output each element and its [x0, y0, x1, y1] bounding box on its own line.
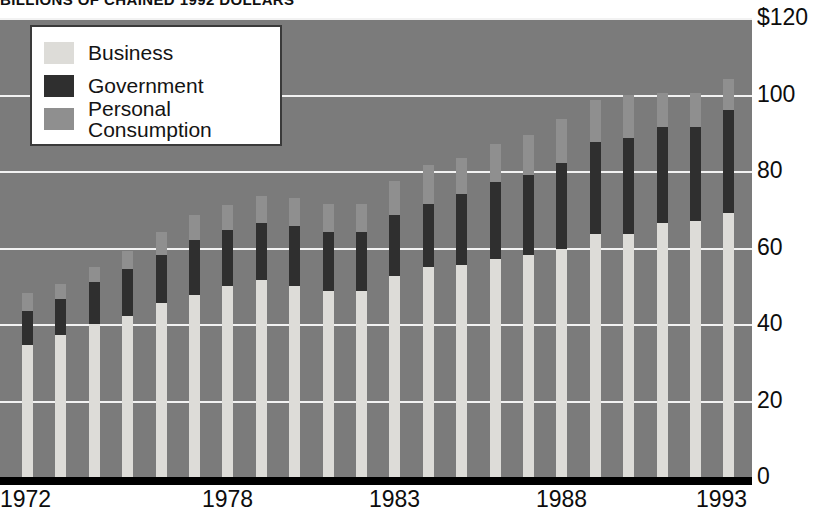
- bar-segment-business: [222, 286, 233, 477]
- bar-segment-personal-consumption: [256, 196, 267, 223]
- bar-segment-personal-consumption: [690, 93, 701, 127]
- bar-segment-government: [22, 311, 33, 345]
- bar-segment-personal-consumption: [523, 135, 534, 175]
- legend-label-business: Business: [88, 42, 173, 63]
- bar-segment-personal-consumption: [122, 251, 133, 268]
- bar-segment-business: [690, 221, 701, 477]
- x-axis: 19721978198319881993: [0, 486, 752, 520]
- bar-1989[interactable]: [590, 18, 601, 477]
- y-axis: $120100806040200: [757, 0, 829, 490]
- bar-segment-business: [89, 324, 100, 477]
- bar-segment-government: [89, 282, 100, 324]
- legend-item-business[interactable]: Business: [44, 36, 264, 69]
- chart-container: BILLIONS OF CHAINED 1992 DOLLARS $120100…: [0, 0, 829, 520]
- bar-1982[interactable]: [356, 18, 367, 477]
- bar-segment-government: [389, 215, 400, 276]
- y-axis-tick-120: $120: [757, 4, 827, 31]
- bar-segment-government: [122, 269, 133, 317]
- x-axis-tick-1988: 1988: [536, 486, 587, 513]
- bar-segment-government: [723, 110, 734, 213]
- bar-segment-government: [55, 299, 66, 335]
- bar-segment-government: [323, 232, 334, 291]
- bar-segment-government: [590, 142, 601, 234]
- bar-segment-business: [389, 276, 400, 477]
- bar-segment-government: [289, 226, 300, 285]
- legend-item-personal[interactable]: Personal Consumption: [44, 102, 264, 135]
- bar-1981[interactable]: [323, 18, 334, 477]
- y-axis-tick-40: 40: [757, 310, 827, 337]
- bar-segment-personal-consumption: [89, 267, 100, 282]
- x-axis-tick-1983: 1983: [369, 486, 420, 513]
- bar-1985[interactable]: [456, 18, 467, 477]
- bar-segment-government: [222, 230, 233, 285]
- bar-1983[interactable]: [389, 18, 400, 477]
- bar-segment-business: [22, 345, 33, 477]
- bar-segment-business: [590, 234, 601, 477]
- bar-segment-personal-consumption: [423, 165, 434, 203]
- bar-segment-business: [523, 255, 534, 477]
- bar-segment-personal-consumption: [590, 100, 601, 142]
- bar-1992[interactable]: [690, 18, 701, 477]
- bar-1987[interactable]: [523, 18, 534, 477]
- bar-segment-business: [657, 223, 668, 477]
- y-axis-tick-20: 20: [757, 387, 827, 414]
- bar-segment-personal-consumption: [389, 181, 400, 215]
- y-axis-tick-0: 0: [757, 463, 827, 490]
- bar-segment-business: [423, 267, 434, 477]
- bar-segment-government: [490, 182, 501, 259]
- bar-1984[interactable]: [423, 18, 434, 477]
- bar-segment-business: [623, 234, 634, 477]
- bar-1988[interactable]: [556, 18, 567, 477]
- bar-segment-business: [256, 280, 267, 477]
- bar-segment-business: [723, 213, 734, 477]
- bar-segment-personal-consumption: [22, 293, 33, 310]
- bar-segment-government: [523, 175, 534, 255]
- bar-segment-personal-consumption: [456, 158, 467, 194]
- x-axis-tick-1978: 1978: [202, 486, 253, 513]
- legend-swatch-business: [44, 42, 74, 64]
- bar-segment-business: [122, 316, 133, 477]
- legend-swatch-government: [44, 75, 74, 97]
- bar-segment-personal-consumption: [189, 215, 200, 240]
- legend-label-personal: Personal Consumption: [88, 98, 264, 140]
- bar-segment-personal-consumption: [323, 204, 334, 233]
- bar-segment-government: [556, 163, 567, 249]
- bar-1986[interactable]: [490, 18, 501, 477]
- bar-segment-personal-consumption: [222, 205, 233, 230]
- bar-segment-government: [256, 223, 267, 280]
- bar-segment-government: [690, 127, 701, 221]
- bar-segment-personal-consumption: [723, 79, 734, 110]
- x-axis-tick-1972: 1972: [0, 486, 51, 513]
- bar-segment-government: [156, 255, 167, 303]
- bar-1991[interactable]: [657, 18, 668, 477]
- bar-segment-government: [189, 240, 200, 295]
- bar-segment-business: [456, 265, 467, 477]
- legend-swatch-personal: [44, 108, 74, 130]
- bar-segment-government: [657, 127, 668, 223]
- bar-segment-personal-consumption: [55, 284, 66, 299]
- y-axis-tick-60: 60: [757, 234, 827, 261]
- x-axis-tick-1993: 1993: [696, 486, 747, 513]
- bar-1990[interactable]: [623, 18, 634, 477]
- bar-segment-personal-consumption: [556, 119, 567, 163]
- bar-segment-government: [623, 138, 634, 234]
- bar-segment-business: [156, 303, 167, 477]
- x-axis-baseline: [0, 477, 752, 485]
- y-axis-tick-100: 100: [757, 81, 827, 108]
- bar-segment-government: [423, 204, 434, 267]
- bar-segment-business: [356, 291, 367, 477]
- bar-segment-personal-consumption: [490, 144, 501, 182]
- bar-segment-government: [456, 194, 467, 265]
- bar-segment-business: [55, 335, 66, 477]
- bar-segment-personal-consumption: [657, 93, 668, 127]
- bar-1980[interactable]: [289, 18, 300, 477]
- bar-1993[interactable]: [723, 18, 734, 477]
- chart-title: BILLIONS OF CHAINED 1992 DOLLARS: [0, 0, 295, 8]
- bar-segment-personal-consumption: [156, 232, 167, 255]
- bar-segment-business: [490, 259, 501, 477]
- bar-segment-business: [323, 291, 334, 477]
- bar-segment-business: [556, 249, 567, 477]
- y-axis-tick-80: 80: [757, 157, 827, 184]
- chart-legend: BusinessGovernmentPersonal Consumption: [30, 25, 282, 146]
- bar-segment-business: [189, 295, 200, 477]
